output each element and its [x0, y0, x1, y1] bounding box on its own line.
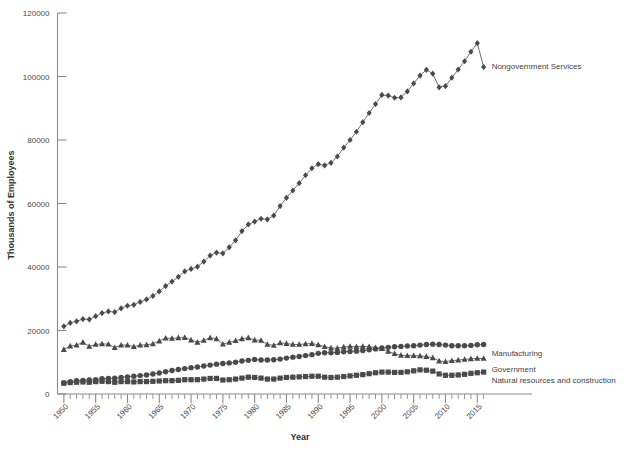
- marker-square: [265, 376, 270, 381]
- marker-square: [354, 373, 359, 378]
- marker-circle: [125, 374, 130, 379]
- marker-square: [271, 376, 276, 381]
- marker-triangle: [277, 340, 283, 346]
- series-nongovernment-services: [61, 40, 486, 329]
- marker-square: [290, 375, 295, 380]
- marker-square: [303, 374, 308, 379]
- marker-circle: [265, 357, 270, 362]
- marker-diamond: [80, 316, 85, 322]
- x-tick-label: 1955: [83, 402, 102, 421]
- marker-square: [144, 379, 149, 384]
- y-axis: 020000400006000080000100000120000: [23, 9, 67, 399]
- series-label-group: Nongovernment ServicesManufacturingGover…: [492, 62, 616, 385]
- marker-square: [347, 373, 352, 378]
- x-tick-label: 2000: [369, 402, 388, 421]
- marker-square: [316, 374, 321, 379]
- marker-square: [411, 368, 416, 373]
- marker-triangle: [264, 341, 270, 347]
- marker-square: [462, 372, 467, 377]
- marker-circle: [366, 347, 371, 352]
- marker-circle: [398, 344, 403, 349]
- employment-line-chart: 020000400006000080000100000120000 195019…: [0, 0, 636, 452]
- marker-diamond: [87, 316, 92, 322]
- marker-triangle: [61, 346, 67, 352]
- marker-square: [481, 369, 486, 374]
- series-label: Nongovernment Services: [492, 62, 582, 71]
- marker-square: [322, 375, 327, 380]
- marker-square: [468, 371, 473, 376]
- marker-circle: [430, 341, 435, 346]
- marker-square: [188, 377, 193, 382]
- marker-triangle: [156, 338, 162, 344]
- x-axis: 1950195519601965197019751980198519901995…: [51, 394, 532, 421]
- marker-circle: [227, 360, 232, 365]
- marker-diamond: [430, 71, 435, 77]
- x-axis-title: Year: [290, 432, 310, 442]
- marker-diamond: [437, 84, 442, 90]
- marker-circle: [277, 356, 282, 361]
- marker-diamond: [119, 305, 124, 311]
- marker-triangle: [150, 341, 156, 347]
- marker-diamond: [99, 310, 104, 316]
- marker-triangle: [80, 339, 86, 345]
- series-line: [64, 43, 484, 326]
- marker-diamond: [258, 216, 263, 222]
- marker-circle: [424, 342, 429, 347]
- marker-square: [360, 372, 365, 377]
- marker-square: [239, 376, 244, 381]
- marker-square: [163, 378, 168, 383]
- marker-square: [195, 377, 200, 382]
- marker-triangle: [436, 358, 442, 364]
- marker-square: [335, 375, 340, 380]
- marker-circle: [169, 368, 174, 373]
- marker-circle: [239, 358, 244, 363]
- marker-diamond: [138, 299, 143, 305]
- marker-diamond: [316, 161, 321, 167]
- x-tick-label: 1985: [274, 402, 293, 421]
- marker-square: [278, 376, 283, 381]
- marker-square: [138, 379, 143, 384]
- marker-diamond: [195, 264, 200, 270]
- marker-circle: [373, 346, 378, 351]
- marker-square: [297, 374, 302, 379]
- marker-circle: [316, 351, 321, 356]
- marker-diamond: [252, 218, 257, 224]
- y-axis-title: Thousands of Employees: [6, 150, 16, 259]
- marker-square: [68, 380, 73, 385]
- marker-circle: [360, 348, 365, 353]
- marker-square: [150, 379, 155, 384]
- marker-circle: [201, 363, 206, 368]
- marker-square: [437, 371, 442, 376]
- marker-square: [169, 378, 174, 383]
- marker-square: [424, 368, 429, 373]
- marker-diamond: [125, 303, 130, 309]
- marker-circle: [449, 343, 454, 348]
- marker-circle: [284, 355, 289, 360]
- marker-circle: [207, 362, 212, 367]
- y-tick-label: 100000: [23, 73, 50, 82]
- marker-square: [176, 378, 181, 383]
- marker-square: [405, 369, 410, 374]
- marker-square: [443, 373, 448, 378]
- marker-circle: [455, 343, 460, 348]
- marker-circle: [296, 354, 301, 359]
- marker-diamond: [74, 318, 79, 324]
- x-tick-label: 1995: [338, 402, 357, 421]
- marker-circle: [188, 365, 193, 370]
- marker-circle: [271, 357, 276, 362]
- marker-square: [379, 369, 384, 374]
- marker-circle: [322, 350, 327, 355]
- marker-triangle: [207, 335, 213, 341]
- marker-square: [201, 376, 206, 381]
- marker-circle: [405, 343, 410, 348]
- marker-square: [119, 379, 124, 384]
- marker-diamond: [112, 309, 117, 315]
- marker-circle: [481, 342, 486, 347]
- marker-circle: [335, 350, 340, 355]
- x-tick-label: 1980: [242, 402, 261, 421]
- marker-circle: [468, 343, 473, 348]
- chart-container: 020000400006000080000100000120000 195019…: [0, 0, 636, 452]
- marker-diamond: [386, 92, 391, 98]
- marker-circle: [386, 345, 391, 350]
- marker-square: [386, 369, 391, 374]
